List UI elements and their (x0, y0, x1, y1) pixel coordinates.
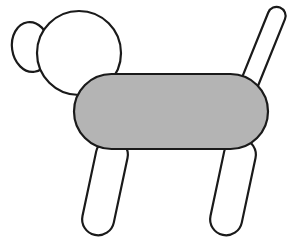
dog-front-leg-shape (79, 136, 131, 239)
dog-body-shape (74, 74, 268, 149)
drawing-canvas (0, 0, 301, 241)
dog-figure (0, 0, 301, 241)
dog-rear-leg-shape (207, 136, 259, 239)
